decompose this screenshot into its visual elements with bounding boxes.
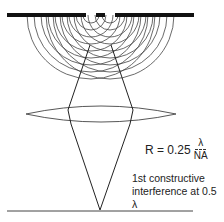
wavefronts-left-slit [27, 15, 155, 79]
caption-line-2: interference at 0.5 λ [132, 185, 224, 211]
ray-right [100, 45, 133, 210]
lens [26, 106, 176, 122]
ray-left [68, 45, 100, 210]
formula-denominator: NA [194, 150, 208, 161]
wavefronts-right-slit [46, 15, 174, 79]
formula-numerator: λ [195, 138, 206, 150]
caption-line-1: 1st constructive [132, 172, 224, 185]
formula-fraction: λ NA [194, 138, 208, 161]
formula-lhs: R = 0.25 [145, 143, 191, 157]
double-slit-barrier [7, 13, 194, 17]
resolution-formula: R = 0.25 λ NA [145, 138, 208, 161]
interference-caption: 1st constructive interference at 0.5 λ [132, 172, 224, 211]
